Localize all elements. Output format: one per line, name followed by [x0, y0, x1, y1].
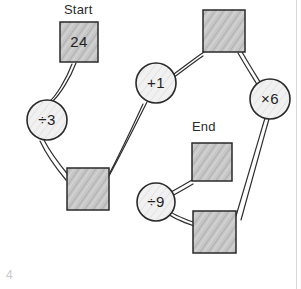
right-border-rule: [296, 0, 297, 289]
box-upper-right[interactable]: [203, 10, 245, 52]
op-plus1-value: +1: [136, 74, 176, 91]
box-lower-left[interactable]: [67, 168, 109, 210]
start-label: Start: [64, 2, 92, 17]
edge-div3-lowerleft: [40, 140, 69, 180]
edge-plus1-upperright: [173, 52, 204, 78]
end-label: End: [192, 119, 216, 134]
edge-mul6-lowerright: [236, 118, 269, 220]
diagram-canvas: Start End 24 ÷3 +1 ×6 ÷9 4: [0, 0, 301, 289]
corner-page-number: 4: [6, 268, 13, 282]
sketch-graph: [0, 0, 301, 289]
box-end[interactable]: [192, 143, 232, 181]
edge-lowerright-div9: [170, 211, 194, 226]
op-mul6-value: ×6: [250, 90, 290, 107]
edge-lowerleft-plus1: [106, 102, 147, 180]
box-start-value: 24: [60, 33, 98, 50]
op-div9-value: ÷9: [137, 193, 175, 210]
edge-start-div3: [49, 63, 76, 102]
op-div3-value: ÷3: [27, 111, 67, 128]
box-lower-right[interactable]: [193, 211, 236, 253]
